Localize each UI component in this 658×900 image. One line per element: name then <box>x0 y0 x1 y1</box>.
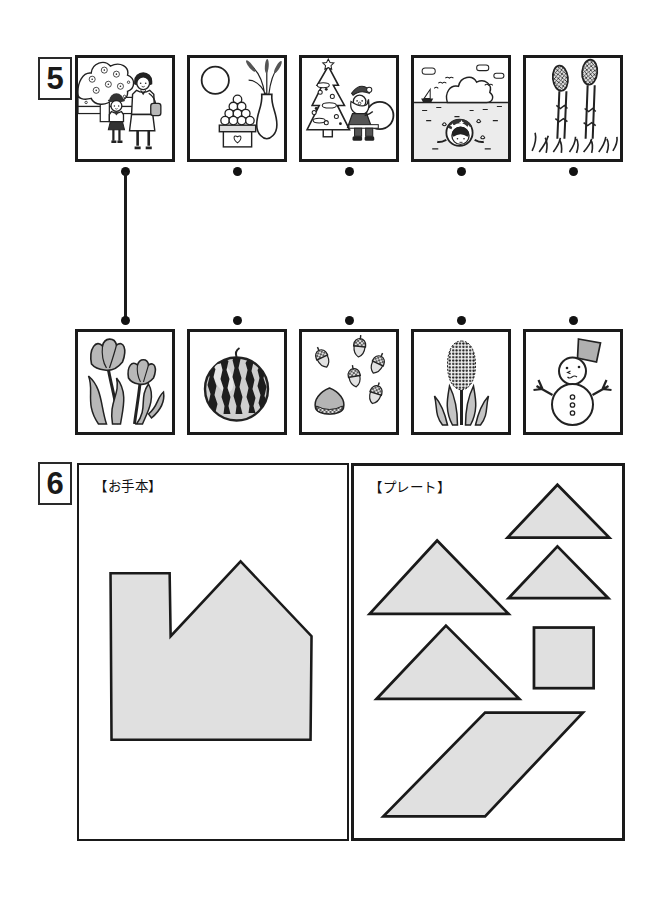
tsukimi-picture[interactable] <box>187 55 287 162</box>
plate-parallelogram <box>383 713 583 817</box>
match-dot-top-3[interactable] <box>345 167 354 176</box>
sea-swimming-picture[interactable] <box>411 55 511 162</box>
entrance-ceremony-picture[interactable] <box>75 55 175 162</box>
watermelon-picture[interactable] <box>187 329 287 435</box>
match-dot-bottom-2[interactable] <box>233 316 242 325</box>
match-dot-bottom-3[interactable] <box>345 316 354 325</box>
plate-medium-triangle-1 <box>508 485 610 538</box>
tsukushi-picture[interactable] <box>523 55 623 162</box>
question-5-number: 5 <box>38 57 72 100</box>
snowman-picture[interactable] <box>523 329 623 435</box>
plate-square <box>534 628 594 689</box>
acorn <box>352 334 366 357</box>
acorn <box>312 345 332 370</box>
plate-shapes <box>354 466 622 838</box>
plate-large-triangle-1 <box>370 540 509 613</box>
match-dot-bottom-4[interactable] <box>457 316 466 325</box>
entrance-ceremony-illustration <box>78 58 172 159</box>
match-dot-bottom-5[interactable] <box>569 316 578 325</box>
christmas-picture[interactable] <box>299 55 399 162</box>
tulips-picture[interactable] <box>75 329 175 435</box>
match-dot-top-4[interactable] <box>457 167 466 176</box>
acorn <box>367 381 385 406</box>
tsukushi-illustration <box>526 58 620 159</box>
plate-medium-triangle-2 <box>509 546 609 598</box>
model-panel: 【お手本】 <box>77 463 349 841</box>
plate-large-triangle-2 <box>376 626 519 699</box>
acorn <box>347 364 363 388</box>
sea-swimming-illustration <box>414 58 508 159</box>
match-dot-bottom-1[interactable] <box>121 316 130 325</box>
christmas-illustration <box>302 58 396 159</box>
watermelon-illustration <box>190 332 284 432</box>
snowman-illustration <box>526 332 620 432</box>
tsukimi-illustration <box>190 58 284 159</box>
acorns-illustration <box>302 332 396 432</box>
model-house-shape <box>79 465 347 839</box>
worksheet-page: 5 <box>0 0 658 900</box>
match-dot-top-5[interactable] <box>569 167 578 176</box>
question-6-number: 6 <box>38 462 72 505</box>
acorn <box>368 351 388 376</box>
hyacinth-illustration <box>414 332 508 432</box>
hyacinth-picture[interactable] <box>411 329 511 435</box>
chestnut <box>315 388 344 414</box>
match-dot-top-2[interactable] <box>233 167 242 176</box>
plate-panel: 【プレート】 <box>351 463 625 841</box>
tulips-illustration <box>78 332 172 432</box>
answer-line <box>124 172 127 319</box>
acorns-picture[interactable] <box>299 329 399 435</box>
